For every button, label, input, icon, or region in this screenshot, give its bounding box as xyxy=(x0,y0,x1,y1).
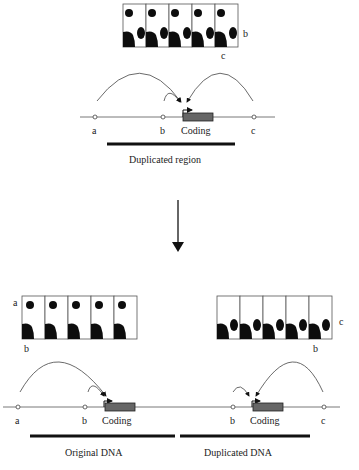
original-dna-map: a b Coding Original DNA xyxy=(15,362,175,458)
top-strip-label-c: c xyxy=(221,50,226,61)
bottom-right-cell-strip: c b xyxy=(217,296,344,354)
br-site-c-label: c xyxy=(321,415,326,426)
duplicated-dna-map: b Coding c Duplicated DNA xyxy=(180,362,326,458)
br-coding-label: Coding xyxy=(250,415,279,426)
top-cell-strip: b c xyxy=(123,4,248,61)
br-strip-label-b: b xyxy=(313,343,318,354)
site-a-label: a xyxy=(92,125,97,136)
duplicated-region-label: Duplicated region xyxy=(129,154,201,165)
top-dna-map: a b Coding c Duplicated region xyxy=(80,73,275,165)
top-strip-label-b: b xyxy=(243,28,248,39)
bl-coding-label: Coding xyxy=(102,415,131,426)
bl-strip-label-a: a xyxy=(13,297,18,308)
bottom-left-cell-strip: a b xyxy=(13,296,137,354)
down-arrow-icon xyxy=(172,200,184,252)
br-site-b-label: b xyxy=(230,415,235,426)
bl-site-a-label: a xyxy=(15,415,20,426)
site-b-label: b xyxy=(160,125,165,136)
coding-region xyxy=(183,113,213,121)
bl-site-b-label: b xyxy=(82,415,87,426)
original-dna-label: Original DNA xyxy=(65,447,123,458)
duplicated-dna-label: Duplicated DNA xyxy=(204,447,273,458)
site-c-label: c xyxy=(251,125,256,136)
gene-duplication-diagram: b c a b Coding c Duplicated region a b xyxy=(0,0,359,470)
coding-label: Coding xyxy=(181,125,210,136)
bl-strip-label-b: b xyxy=(24,343,29,354)
br-strip-label-c: c xyxy=(339,316,344,327)
